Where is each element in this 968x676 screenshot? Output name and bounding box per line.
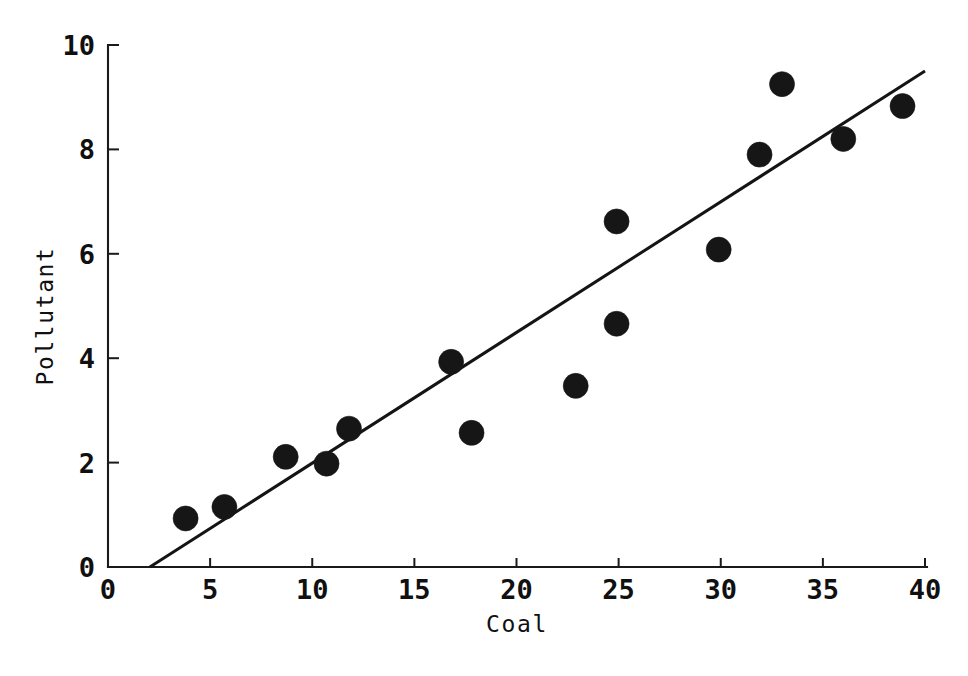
x-tick-label: 10 <box>296 574 329 605</box>
x-tick-label: 25 <box>602 574 635 605</box>
data-point <box>706 237 731 262</box>
x-tick-label: 15 <box>398 574 431 605</box>
data-point <box>459 420 484 445</box>
y-axis-title: Pollutant <box>32 246 58 385</box>
data-point <box>273 444 298 469</box>
x-tick-label: 0 <box>100 574 116 605</box>
y-tick-label: 4 <box>79 343 95 374</box>
data-point <box>747 142 772 167</box>
x-tick-label: 30 <box>704 574 737 605</box>
x-tick-label: 5 <box>202 574 218 605</box>
data-point <box>563 373 588 398</box>
chart-canvas: 0510152025303540 0246810 Coal Pollutant <box>0 0 968 676</box>
data-point <box>212 494 237 519</box>
y-tick-label: 2 <box>79 448 95 479</box>
y-tick-label: 10 <box>62 30 95 61</box>
x-tick-label: 40 <box>909 574 942 605</box>
data-point <box>890 94 915 119</box>
data-point <box>604 209 629 234</box>
y-tick-label: 6 <box>79 239 95 270</box>
data-point <box>770 72 795 97</box>
y-tick-label: 0 <box>79 552 95 583</box>
data-point <box>337 416 362 441</box>
x-axis-title: Coal <box>486 611 548 637</box>
x-tick-label: 35 <box>807 574 840 605</box>
data-point <box>604 311 629 336</box>
x-tick-label: 20 <box>500 574 533 605</box>
data-point <box>831 126 856 151</box>
data-point <box>314 451 339 476</box>
y-tick-label: 8 <box>79 134 95 165</box>
data-point <box>173 506 198 531</box>
scatter-plot-figure: 0510152025303540 0246810 Coal Pollutant <box>0 0 968 676</box>
data-point <box>439 349 464 374</box>
